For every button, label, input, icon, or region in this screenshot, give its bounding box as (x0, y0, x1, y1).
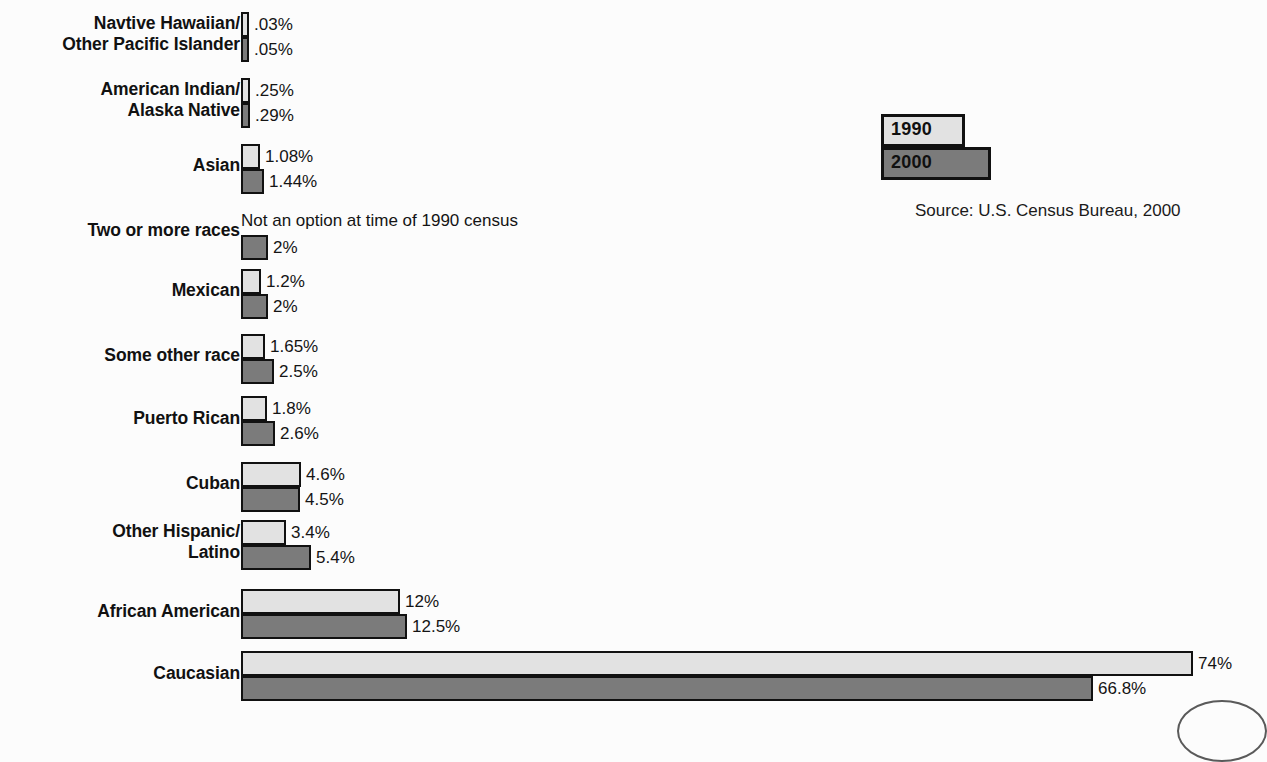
bar-1990 (241, 144, 260, 169)
bar-2000 (241, 614, 407, 639)
category-label: Navtive Hawaiian/ Other Pacific Islander (0, 13, 240, 55)
bar-value-1990: 1.08% (260, 144, 313, 169)
category-label: African American (0, 601, 240, 622)
bar-value-2000: .29% (250, 103, 294, 128)
legend-label-1990: 1990 (891, 114, 932, 147)
bar-value-1990: 3.4% (286, 520, 330, 545)
category-label: Some other race (0, 345, 240, 366)
bar-value-2000: 5.4% (311, 545, 355, 570)
bar-value-2000: 2.5% (274, 359, 318, 384)
bar-value-2000: 12.5% (407, 614, 460, 639)
bar-value-1990: 1.65% (265, 334, 318, 359)
bar-value-2000: 2.6% (275, 421, 319, 446)
bar-value-1990: 1.8% (267, 396, 311, 421)
bar-value-1990: 74% (1193, 651, 1232, 676)
category-label: Two or more races (0, 220, 240, 241)
legend-label-2000: 2000 (891, 147, 932, 180)
bar-1990 (241, 396, 267, 421)
bar-value-1990: 12% (400, 589, 439, 614)
bar-value-2000: 4.5% (300, 487, 344, 512)
bar-value-1990: 1.2% (261, 269, 305, 294)
bar-2000 (241, 37, 249, 62)
page-number-circle (1177, 700, 1267, 762)
bar-2000 (241, 545, 311, 570)
category-label: Mexican (0, 280, 240, 301)
category-label: Other Hispanic/ Latino (0, 521, 240, 563)
bar-2000 (241, 421, 275, 446)
category-label: Asian (0, 155, 240, 176)
bar-value-2000: 2% (268, 235, 298, 260)
bar-1990 (241, 334, 265, 359)
bar-1990 (241, 462, 301, 487)
category-label: Puerto Rican (0, 408, 240, 429)
no-data-note-1990: Not an option at time of 1990 census (241, 210, 518, 235)
bar-2000 (241, 169, 264, 194)
bar-1990 (241, 12, 249, 37)
bar-value-1990: 4.6% (301, 462, 345, 487)
bar-value-1990: .25% (250, 78, 294, 103)
bar-value-2000: 66.8% (1093, 676, 1146, 701)
bar-1990 (241, 520, 286, 545)
category-label: Caucasian (0, 663, 240, 684)
bar-2000 (241, 235, 268, 260)
bar-1990 (241, 589, 400, 614)
bar-1990 (241, 78, 250, 103)
bar-1990 (241, 651, 1193, 676)
source-note: Source: U.S. Census Bureau, 2000 (915, 201, 1181, 221)
category-label: Cuban (0, 473, 240, 494)
bar-value-2000: .05% (249, 37, 293, 62)
bar-value-2000: 1.44% (264, 169, 317, 194)
bar-2000 (241, 294, 268, 319)
category-label: American Indian/ Alaska Native (0, 79, 240, 121)
bar-2000 (241, 487, 300, 512)
bar-2000 (241, 676, 1093, 701)
bar-value-1990: .03% (249, 12, 293, 37)
bar-value-2000: 2% (268, 294, 298, 319)
bar-1990 (241, 269, 261, 294)
bar-2000 (241, 359, 274, 384)
bar-2000 (241, 103, 250, 128)
